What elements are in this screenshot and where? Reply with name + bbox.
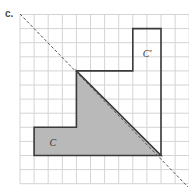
reflection-line xyxy=(20,14,188,187)
label-c-prime: C' xyxy=(143,48,153,59)
label-c: C xyxy=(50,137,57,148)
reflection-diagram: C C' xyxy=(0,0,189,195)
